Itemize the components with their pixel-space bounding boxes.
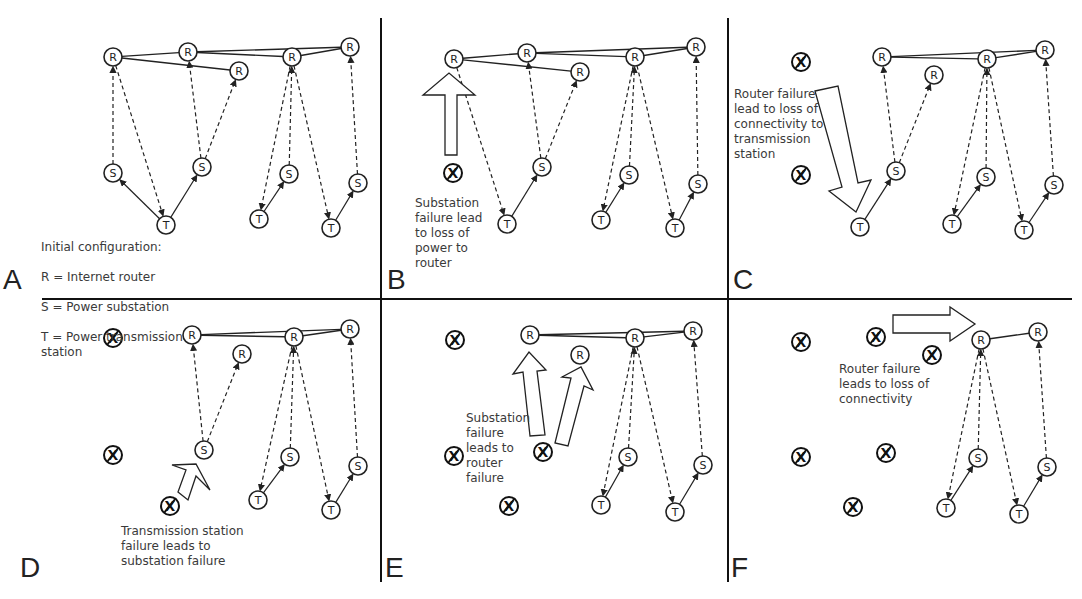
- svg-text:R: R: [346, 41, 354, 54]
- power-link-c: [1029, 193, 1048, 222]
- arrow-e-up-right-icon: [555, 367, 593, 446]
- substation-node-c: S: [887, 162, 905, 180]
- router-link-c: [891, 50, 1036, 56]
- router-link-b: [463, 60, 571, 71]
- transmission-node-c: T: [851, 218, 869, 236]
- failed-node-icon: X: [104, 446, 122, 464]
- svg-text:T: T: [671, 506, 679, 519]
- transmission-node-f: T: [937, 499, 955, 517]
- dependency-link-c: [954, 68, 985, 214]
- router-node-b: R: [445, 50, 463, 68]
- transmission-node-b: T: [666, 219, 684, 237]
- svg-text:R: R: [109, 51, 117, 64]
- dependency-link-b: [637, 66, 673, 218]
- failed-node-icon: X: [534, 443, 552, 461]
- router-node-a: R: [283, 48, 301, 66]
- dependency-link-d: [351, 339, 358, 457]
- svg-text:R: R: [523, 47, 531, 60]
- svg-text:T: T: [942, 502, 950, 515]
- substation-node-d: S: [195, 441, 213, 459]
- svg-text:S: S: [539, 161, 546, 174]
- failure-cascade-figure: RRRRRSSSSTTTRRRRRSSSTTTXRRRRSSSTTTXXRRRR…: [0, 0, 1082, 599]
- transmission-node-b: T: [592, 211, 610, 229]
- router-node-e: R: [571, 346, 589, 364]
- power-link-b: [512, 176, 537, 217]
- substation-node-b: S: [533, 158, 551, 176]
- substation-node-c: S: [977, 168, 995, 186]
- substation-node-a: S: [104, 164, 122, 182]
- substation-node-c: S: [1045, 176, 1063, 194]
- arrow-b-up-icon: [423, 73, 475, 155]
- dependency-link-c: [883, 67, 895, 162]
- dependency-link-c: [899, 84, 930, 162]
- svg-text:S: S: [700, 459, 707, 472]
- svg-text:S: S: [201, 444, 208, 457]
- failed-node-icon: X: [792, 333, 810, 351]
- router-node-d: R: [183, 326, 201, 344]
- failed-node-icon: X: [867, 328, 885, 346]
- dependency-link-a: [351, 57, 358, 174]
- svg-text:T: T: [1015, 508, 1023, 521]
- dependency-link-f: [983, 349, 1017, 504]
- router-link-b: [644, 48, 687, 55]
- power-link-f: [1024, 476, 1042, 507]
- failed-node-icon: X: [792, 448, 810, 466]
- legend-title: Initial configuration:: [41, 240, 183, 255]
- caption-f: Router failure leads to loss of connecti…: [839, 362, 929, 407]
- failed-node-icon: X: [500, 497, 518, 515]
- svg-text:S: S: [695, 178, 702, 191]
- substation-node-b: S: [689, 175, 707, 193]
- dependency-link-d: [207, 363, 238, 441]
- svg-text:T: T: [948, 218, 956, 231]
- svg-text:R: R: [184, 46, 192, 59]
- transmission-node-d: T: [322, 501, 340, 519]
- router-node-c: R: [978, 50, 996, 68]
- svg-text:R: R: [977, 334, 985, 347]
- router-node-e: R: [626, 329, 644, 347]
- arrow-d-upright-icon: [172, 464, 210, 500]
- power-link-d: [336, 475, 353, 503]
- svg-text:T: T: [327, 222, 335, 235]
- dependency-link-b: [696, 57, 698, 175]
- svg-text:R: R: [290, 331, 298, 344]
- dependency-link-b: [545, 81, 576, 158]
- svg-text:S: S: [286, 168, 293, 181]
- failed-node-icon: X: [446, 331, 464, 349]
- substation-node-a: S: [193, 158, 211, 176]
- dependency-link-f: [1039, 342, 1047, 458]
- transmission-node-a: T: [322, 219, 340, 237]
- panel-label-c: C: [733, 266, 753, 294]
- dependency-link-b: [603, 66, 633, 210]
- failed-node-icon: X: [877, 444, 895, 462]
- power-link-c: [957, 185, 980, 217]
- transmission-node-c: T: [1015, 221, 1033, 239]
- router-node-f: R: [972, 331, 990, 349]
- dependency-link-a: [205, 80, 235, 158]
- legend-router: R = Internet router: [41, 270, 183, 285]
- svg-text:R: R: [238, 348, 246, 361]
- dependency-link-c: [986, 69, 987, 168]
- svg-text:R: R: [576, 349, 584, 362]
- panel-label-a: A: [3, 266, 22, 294]
- router-link-a: [197, 47, 341, 51]
- dependency-link-d: [193, 345, 203, 441]
- router-node-a: R: [341, 38, 359, 56]
- dependency-link-f: [978, 350, 981, 449]
- transmission-node-c: T: [943, 215, 961, 233]
- dependency-link-c: [1046, 60, 1054, 176]
- router-node-b: R: [687, 38, 705, 56]
- transmission-node-f: T: [1010, 505, 1028, 523]
- router-node-b: R: [518, 44, 536, 62]
- svg-text:R: R: [631, 51, 639, 64]
- failed-node-icon: X: [792, 53, 810, 71]
- panel-label-e: E: [385, 554, 404, 582]
- svg-text:S: S: [625, 451, 632, 464]
- power-link-a: [336, 192, 353, 221]
- dependency-link-a: [261, 66, 290, 209]
- dependency-link-d: [260, 346, 292, 490]
- svg-text:R: R: [983, 53, 991, 66]
- dependency-link-e: [637, 347, 673, 502]
- router-node-d: R: [341, 320, 359, 338]
- router-node-e: R: [521, 326, 539, 344]
- svg-text:T: T: [254, 494, 262, 507]
